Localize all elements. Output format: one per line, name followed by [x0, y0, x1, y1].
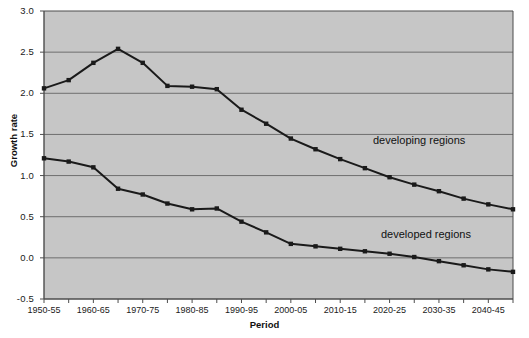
data-point-marker [239, 108, 243, 112]
data-point-marker [461, 196, 465, 200]
data-point-marker [141, 192, 145, 196]
data-point-marker [66, 159, 70, 163]
y-tick-label: 0.0 [8, 252, 34, 263]
series-label-developing-regions: developing regions [373, 134, 465, 146]
data-point-marker [116, 187, 120, 191]
data-point-marker [387, 175, 391, 179]
data-point-marker [289, 242, 293, 246]
data-point-marker [412, 182, 416, 186]
data-point-marker [387, 252, 391, 256]
data-point-marker [215, 87, 219, 91]
data-point-marker [239, 219, 243, 223]
data-point-marker [363, 249, 367, 253]
y-tick-label: -0.5 [8, 293, 34, 304]
data-point-marker [313, 244, 317, 248]
y-tick-label: 0.5 [8, 211, 34, 222]
growth-rate-line-chart: 3.02.52.01.51.00.50.0-0.5 1950-551960-65… [0, 0, 529, 338]
data-point-marker [437, 259, 441, 263]
data-point-marker [461, 263, 465, 267]
data-point-marker [313, 147, 317, 151]
data-point-marker [165, 201, 169, 205]
data-point-marker [264, 230, 268, 234]
x-axis-title: Period [0, 319, 529, 330]
data-point-marker [511, 207, 515, 211]
data-point-marker [363, 166, 367, 170]
data-point-marker [91, 61, 95, 65]
y-tick-label: 2.0 [8, 87, 34, 98]
x-tick-label: 2040-45 [458, 305, 518, 315]
data-point-marker [190, 85, 194, 89]
data-point-marker [289, 136, 293, 140]
data-point-marker [486, 267, 490, 271]
data-point-marker [141, 61, 145, 65]
series-label-developed-regions: developed regions [381, 228, 471, 240]
y-axis-title: Growth rate [8, 106, 19, 176]
data-point-marker [66, 78, 70, 82]
data-point-marker [338, 157, 342, 161]
data-point-marker [91, 165, 95, 169]
data-point-marker [215, 206, 219, 210]
data-point-marker [116, 47, 120, 51]
data-point-marker [338, 247, 342, 251]
data-point-marker [437, 189, 441, 193]
y-tick-label: 3.0 [8, 5, 34, 16]
data-point-marker [42, 86, 46, 90]
data-point-marker [42, 156, 46, 160]
data-point-marker [190, 207, 194, 211]
data-point-marker [486, 202, 490, 206]
data-point-marker [264, 122, 268, 126]
plot-background [44, 11, 513, 299]
chart-plot-area [0, 0, 529, 338]
data-point-marker [165, 84, 169, 88]
data-point-marker [412, 255, 416, 259]
y-tick-label: 2.5 [8, 46, 34, 57]
data-point-marker [511, 270, 515, 274]
